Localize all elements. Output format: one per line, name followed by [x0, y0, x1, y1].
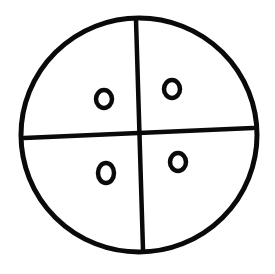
quartered-circle-diagram — [0, 0, 275, 274]
